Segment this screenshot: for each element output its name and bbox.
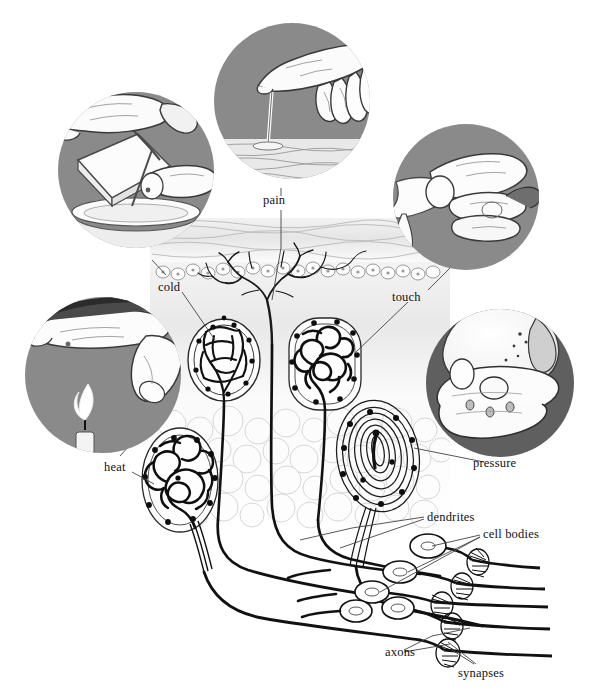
label-touch: touch [392,290,421,305]
label-pressure: pressure [473,456,516,471]
label-dendrites: dendrites [427,510,475,525]
figure-canvas: pain cold touch heat pressure dendrites … [0,0,597,691]
label-pain: pain [263,193,285,208]
label-heat: heat [104,460,126,475]
leader-heat-up [120,434,140,456]
label-synapses: synapses [458,666,504,681]
anatomy-illustration [0,0,597,691]
leader-pressure-up [470,438,498,452]
label-cold: cold [158,280,180,295]
label-cell-bodies: cell bodies [483,527,539,542]
neuron-chain [288,534,552,667]
label-axons: axons [385,645,415,660]
